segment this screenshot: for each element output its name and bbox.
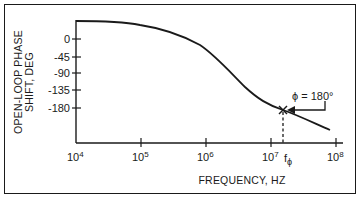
phase-annotation-arrow [292, 101, 325, 110]
x-axis-title: FREQUENCY, HZ [199, 174, 286, 186]
x-tick-labels: 104 105 106 107 108 [67, 150, 344, 163]
axes [76, 20, 343, 143]
svg-text:SHIFT, DEG: SHIFT, DEG [23, 52, 35, 112]
x-tick-label: 105 [132, 150, 149, 163]
f-phi-label: fϕ [284, 152, 292, 167]
y-tick-label: -180 [48, 102, 70, 114]
y-axis-title: OPEN-LOOP PHASE SHIFT, DEG [12, 30, 35, 134]
x-tick-label: 104 [67, 150, 84, 163]
y-tick-label: -135 [48, 84, 70, 96]
y-tick-label: 0 [64, 33, 70, 45]
phase-curve [76, 21, 330, 130]
x-tick-label: 106 [197, 150, 214, 163]
x-tick-label: 107 [262, 150, 279, 163]
x-tick-label: 108 [327, 150, 344, 163]
y-tick-label: -45 [54, 51, 70, 63]
phase-chart: 0 -45 -90 -135 -180 OPEN-LOOP PHASE SHIF… [0, 0, 361, 199]
phase-annotation-label: ϕ = 180° [292, 90, 333, 102]
y-tick-label: -90 [54, 67, 70, 79]
y-tick-labels: 0 -45 -90 -135 -180 [48, 33, 70, 114]
